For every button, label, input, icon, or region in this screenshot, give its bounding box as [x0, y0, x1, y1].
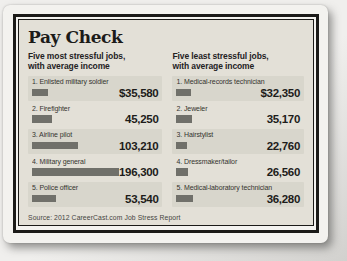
source-note: Source: 2012 CareerCast.com Job Stress R… [28, 214, 304, 221]
job-label: 1. Medical-records technician [176, 78, 300, 87]
income-bar [176, 89, 190, 97]
job-row: 2. Jeweler 35,170 [172, 103, 304, 128]
income-value: 36,280 [267, 193, 300, 205]
job-row: 5. Medical-laboratory technician 36,280 [172, 182, 304, 207]
job-row: 2. Firefighter 45,250 [28, 103, 162, 128]
infographic-content: Pay Check Five most stressful jobs, with… [18, 19, 314, 226]
column-most-stressful: Five most stressful jobs, with average i… [28, 49, 162, 209]
job-row: 4. Dressmaker/tailor 26,560 [172, 156, 304, 181]
income-bar [32, 168, 119, 176]
column-subtitle: Five least stressful jobs, with average … [172, 51, 304, 71]
income-value: $32,350 [261, 87, 300, 99]
income-value: 196,300 [119, 166, 158, 178]
job-row: 1. Medical-records technician $32,350 [172, 76, 304, 101]
income-bar [32, 115, 52, 123]
newspaper-clipping-card: Pay Check Five most stressful jobs, with… [3, 5, 328, 243]
column-subtitle: Five most stressful jobs, with average i… [28, 51, 162, 71]
income-bar [32, 195, 56, 203]
job-row: 4. Military general 196,300 [28, 156, 162, 181]
income-bar [32, 142, 78, 150]
job-label: 3. Hairstylist [176, 131, 300, 140]
job-label: 5. Police officer [32, 184, 158, 193]
column-least-stressful: Five least stressful jobs, with average … [172, 49, 304, 209]
income-bar [176, 195, 192, 203]
job-label: 2. Jeweler [176, 105, 300, 114]
income-value: 45,250 [125, 113, 158, 125]
income-value: 35,170 [267, 113, 300, 125]
income-value: 53,540 [125, 193, 158, 205]
infographic-title: Pay Check [28, 28, 304, 46]
job-row: 5. Police officer 53,540 [28, 182, 162, 207]
job-label: 4. Military general [32, 158, 158, 167]
income-value: 26,560 [267, 166, 300, 178]
income-bar [176, 115, 192, 123]
income-value: $35,580 [119, 87, 158, 99]
job-label: 5. Medical-laboratory technician [176, 184, 300, 193]
income-value: 22,760 [267, 140, 300, 152]
job-label: 3. Airline pilot [32, 131, 158, 140]
job-label: 4. Dressmaker/tailor [176, 158, 300, 167]
job-label: 1. Enlisted military soldier [32, 78, 158, 87]
job-row: 3. Hairstylist 22,760 [172, 129, 304, 154]
job-label: 2. Firefighter [32, 105, 158, 114]
income-bar [176, 168, 188, 176]
income-value: 103,210 [119, 140, 158, 152]
income-bar [32, 89, 48, 97]
job-row: 1. Enlisted military soldier $35,580 [28, 76, 162, 101]
income-bar [176, 142, 186, 150]
job-row: 3. Airline pilot 103,210 [28, 129, 162, 154]
two-column-layout: Five most stressful jobs, with average i… [28, 49, 304, 209]
double-rule-frame: Pay Check Five most stressful jobs, with… [13, 14, 319, 233]
